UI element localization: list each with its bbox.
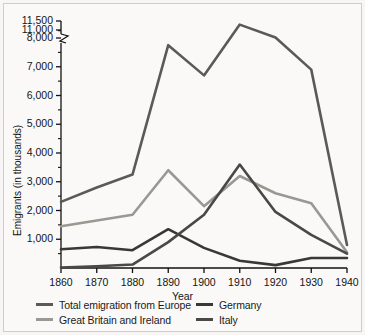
y-axis-tick-label: 4,000 xyxy=(27,146,53,158)
y-axis-tick-label: 2,000 xyxy=(27,204,53,216)
legend-row: Great Britain and Ireland Italy xyxy=(36,312,356,327)
y-axis-tick-label: 11,500 xyxy=(22,14,53,26)
legend-label-germany: Germany xyxy=(219,299,261,311)
legend-item-great-britain-and-ireland: Great Britain and Ireland xyxy=(36,314,196,326)
legend-label-italy: Italy xyxy=(219,314,238,326)
legend-item-germany: Germany xyxy=(196,299,356,311)
chart-figure: Emigrants (in thousands) Year Total emig… xyxy=(0,0,365,335)
legend-label-total-emigration-from-europe: Total emigration from Europe xyxy=(59,299,191,311)
y-axis-tick-label: 5,000 xyxy=(27,117,53,129)
legend-swatch-germany xyxy=(196,303,213,306)
legend-item-italy: Italy xyxy=(196,314,356,326)
legend-swatch-italy xyxy=(196,318,213,321)
legend-swatch-total-emigration-from-europe xyxy=(36,303,53,306)
chart-legend: Total emigration from Europe Germany Gre… xyxy=(36,297,356,329)
y-axis-label: Emigrants (in thousands) xyxy=(12,125,23,236)
y-axis-tick-label: 6,000 xyxy=(27,89,53,101)
y-axis-tick-label: 7,000 xyxy=(27,60,53,72)
y-axis-tick-label: 3,000 xyxy=(27,175,53,187)
legend-row: Total emigration from Europe Germany xyxy=(36,297,356,312)
x-axis-tick-label: 1940 xyxy=(323,276,365,288)
legend-label-great-britain-and-ireland: Great Britain and Ireland xyxy=(59,314,171,326)
legend-item-total-emigration-from-europe: Total emigration from Europe xyxy=(36,299,196,311)
legend-swatch-great-britain-and-ireland xyxy=(36,318,53,321)
y-axis-tick-label: 1,000 xyxy=(27,232,53,244)
